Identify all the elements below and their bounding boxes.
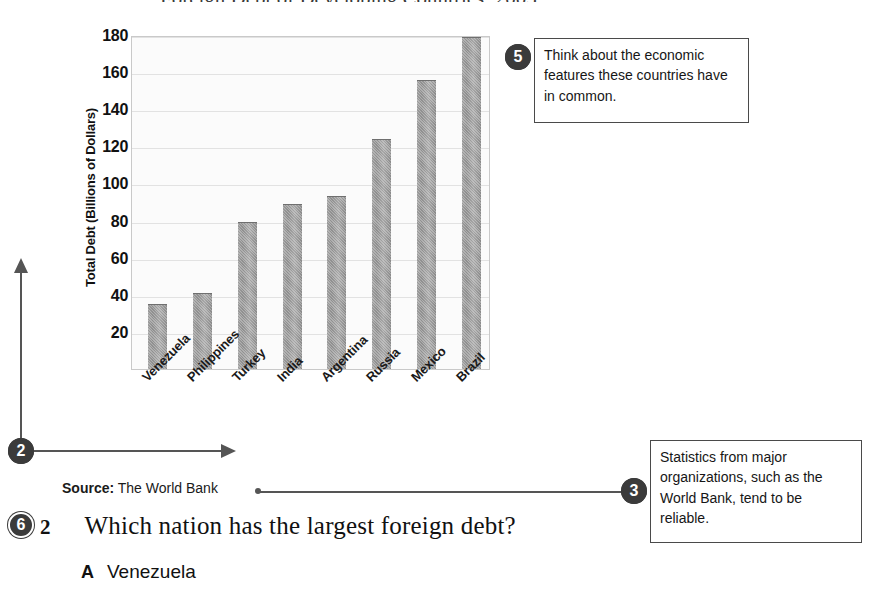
y-tick-label-160: 160 (102, 64, 128, 82)
y-tick-label-140: 140 (102, 101, 128, 119)
callout-marker-6: 6 (8, 512, 34, 538)
cutoff-heading: Foreign Debt of Developing Countries, 20… (160, 0, 680, 2)
callout-2-horizontal-leader (20, 450, 225, 452)
gridline-160 (132, 74, 489, 75)
y-tick-label-20: 20 (111, 324, 128, 342)
y-tick-label-180: 180 (102, 27, 128, 45)
answer-letter: A (81, 562, 94, 583)
question-row: 2 Which nation has the largest foreign d… (40, 512, 516, 540)
y-tick-label-100: 100 (102, 175, 128, 193)
plot-area (131, 36, 490, 370)
y-tick-label-80: 80 (111, 213, 128, 231)
callout-marker-5: 5 (505, 44, 531, 70)
bar-turkey (238, 222, 257, 369)
y-tick-label-40: 40 (111, 287, 128, 305)
callout-2-vertical-leader (20, 272, 22, 444)
source-label: Source: (62, 480, 114, 496)
y-tick-label-120: 120 (102, 138, 128, 156)
answer-choice-a[interactable]: A Venezuela (81, 561, 196, 583)
source-value: The World Bank (118, 480, 218, 496)
bar-india (283, 204, 302, 369)
callout-2-right-arrow-icon (221, 444, 236, 458)
x-axis-category-labels: VenezuelaPhilippinesTurkeyIndiaArgentina… (131, 374, 490, 454)
callout-marker-3: 3 (621, 478, 647, 504)
question-number: 2 (40, 515, 51, 540)
gridline-180 (132, 37, 489, 38)
y-axis-tick-labels: 20406080100120140160180 (86, 36, 128, 370)
bar-chart-figure: Total Debt (Billions of Dollars) 2040608… (0, 18, 500, 438)
callout-3-leader-line (258, 491, 624, 493)
y-tick-label-60: 60 (111, 250, 128, 268)
question-text: Which nation has the largest foreign deb… (85, 512, 516, 540)
bar-brazil (462, 37, 481, 369)
callout-note-3: Statistics from major organizations, suc… (650, 440, 862, 543)
bar-russia (372, 139, 391, 369)
callout-2-up-arrow-icon (14, 258, 28, 273)
callout-note-5: Think about the economic features these … (534, 38, 749, 123)
source-line: Source: The World Bank (62, 480, 218, 496)
bar-mexico (417, 80, 436, 369)
answer-text: Venezuela (107, 561, 196, 583)
bar-argentina (327, 196, 346, 369)
callout-marker-2: 2 (8, 438, 34, 464)
